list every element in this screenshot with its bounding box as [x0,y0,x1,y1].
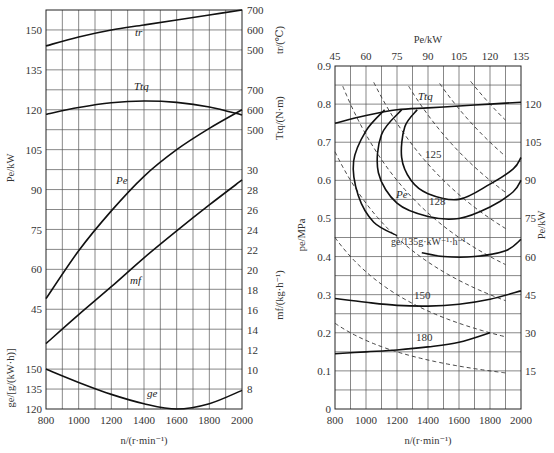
iso-power-45 [335,152,506,301]
curve-label-ge: ge [147,387,158,399]
svg-text:0.7: 0.7 [317,136,331,148]
svg-text:90: 90 [525,174,537,186]
svg-text:1400: 1400 [417,414,440,426]
svg-text:15: 15 [525,365,537,377]
map-label-128: 128 [429,195,446,207]
svg-text:500: 500 [247,44,264,56]
svg-text:105: 105 [26,144,43,156]
svg-text:60: 60 [525,251,537,263]
svg-text:10: 10 [247,364,259,376]
svg-text:60: 60 [31,263,43,275]
curve-label-tr: tr [135,26,143,38]
svg-text:700: 700 [247,4,264,16]
svg-text:120: 120 [26,104,43,116]
svg-text:75: 75 [392,50,404,62]
svg-text:105: 105 [525,136,542,148]
svg-text:1800: 1800 [479,414,502,426]
svg-text:26: 26 [247,204,259,216]
map-label-pe: Pe [395,188,408,200]
curve-label-pe: Pe [115,174,128,186]
svg-text:45: 45 [525,289,537,301]
svg-text:0.1: 0.1 [317,365,331,377]
svg-text:90: 90 [423,50,435,62]
left-ttq-axis-title: Ttq/(N·m) [274,96,286,140]
svg-text:18: 18 [247,284,259,296]
svg-text:60: 60 [361,50,373,62]
left-tr-axis-title: tr/(℃) [274,25,286,54]
svg-text:0.2: 0.2 [317,327,331,339]
svg-text:150: 150 [26,363,43,375]
svg-text:0.5: 0.5 [317,212,331,224]
iso-power-30 [335,238,506,337]
svg-text:1200: 1200 [386,414,409,426]
svg-text:2000: 2000 [231,414,254,426]
svg-text:135: 135 [513,50,530,62]
svg-text:0.8: 0.8 [317,98,331,110]
svg-text:0.3: 0.3 [317,289,331,301]
svg-text:20: 20 [247,264,259,276]
svg-text:1200: 1200 [100,414,123,426]
svg-text:120: 120 [525,98,542,110]
map-label-125: 125 [425,148,442,160]
svg-text:700: 700 [247,84,264,96]
svg-text:8: 8 [247,383,253,395]
svg-text:75: 75 [525,212,537,224]
map-label-180: 180 [416,331,433,343]
svg-text:1400: 1400 [133,414,156,426]
curve-label-mf: mf [130,274,143,286]
left-pe-axis-title: Pe/kW [5,154,16,183]
svg-text:1600: 1600 [166,414,189,426]
svg-text:600: 600 [247,24,264,36]
svg-text:800: 800 [327,414,344,426]
svg-text:500: 500 [247,124,264,136]
map-label-ttq: Ttq [418,90,433,102]
left-x-axis-title: n/(r·min⁻¹) [120,435,168,447]
svg-text:24: 24 [247,224,259,236]
left-ge-axis-title: ge/[g/(kW·h)] [5,349,17,408]
svg-text:0.4: 0.4 [317,251,331,263]
left-mf-axis-title: mf/(kg·h⁻¹) [274,270,286,320]
right-x-axis-title: n/(r·min⁻¹) [404,435,452,447]
charts-canvas: 8001000120014001600180020004560759010512… [0,0,554,453]
svg-text:22: 22 [247,244,258,256]
svg-text:30: 30 [247,164,259,176]
svg-text:800: 800 [38,414,55,426]
svg-text:135: 135 [26,383,43,395]
svg-text:45: 45 [31,303,43,315]
svg-text:16: 16 [247,304,259,316]
right-left-axis-title: pe/MPa [296,218,307,251]
svg-text:0.6: 0.6 [317,174,331,186]
right-top-axis-title: Pe/kW [414,34,443,45]
svg-text:1000: 1000 [355,414,378,426]
left-chart: 8001000120014001600180020004560759010512… [5,4,286,447]
svg-text:600: 600 [247,104,264,116]
contour-ge-135 [353,110,397,236]
map-label-150: 150 [414,289,431,301]
right-right-axis-title: Pe/kW [536,211,547,240]
svg-text:28: 28 [247,184,259,196]
svg-text:45: 45 [330,50,342,62]
svg-text:1000: 1000 [68,414,91,426]
svg-text:150: 150 [26,24,43,36]
iso-power-90 [409,86,506,192]
svg-text:1600: 1600 [448,414,471,426]
svg-text:135: 135 [26,64,43,76]
svg-text:12: 12 [247,344,258,356]
svg-text:120: 120 [26,403,43,415]
iso-power-105 [440,83,506,156]
iso-power-dashed-lines [335,81,506,373]
svg-text:105: 105 [451,50,468,62]
svg-text:120: 120 [482,50,499,62]
right-chart: 80010001200140016001800200000.10.20.30.4… [296,34,547,447]
svg-text:0: 0 [326,403,332,415]
svg-text:14: 14 [247,324,259,336]
left-grid [46,10,242,409]
left-ticks: 8001000120014001600180020004560759010512… [26,4,265,426]
svg-text:2000: 2000 [510,414,533,426]
iso-power-120 [471,81,506,120]
svg-text:1800: 1800 [198,414,221,426]
svg-text:30: 30 [525,327,537,339]
curve-label-ttq: Ttq [134,80,149,92]
svg-text:75: 75 [31,224,43,236]
map-label-135: ge/135g·kW⁻¹·h⁻¹ [391,236,466,247]
